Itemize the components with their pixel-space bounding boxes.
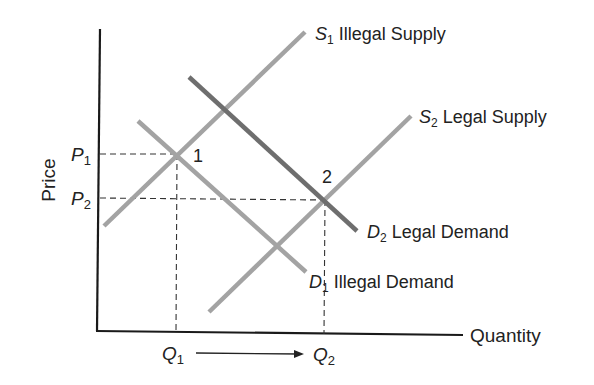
d1-label: D1Illegal Demand	[309, 272, 454, 295]
s2-label: S2Legal Supply	[419, 107, 547, 130]
y-axis	[97, 29, 100, 331]
q1-guide	[176, 154, 177, 332]
q-shift-arrow-icon	[196, 350, 304, 358]
s1-illegal-supply-line	[104, 32, 305, 226]
d2-legal-demand-line	[189, 77, 357, 231]
q1-label: Q1	[162, 343, 184, 367]
p1-label: P1	[71, 144, 91, 168]
x-axis-label: Quantity	[470, 325, 541, 346]
x-axis	[96, 331, 463, 335]
p2-label: P2	[71, 188, 91, 212]
q2-guide	[324, 200, 325, 334]
supply-demand-chart: Price P1 P2 1 2 S1Illegal Supply S2Legal…	[0, 0, 594, 385]
s1-label: S1Illegal Supply	[315, 24, 446, 47]
equilibrium-1-label: 1	[193, 146, 203, 166]
d2-label: D2Legal Demand	[367, 222, 509, 245]
d1-illegal-demand-line	[138, 121, 306, 272]
equilibrium-2-label: 2	[322, 167, 332, 187]
y-axis-label: Price	[38, 158, 59, 201]
q2-label: Q2	[313, 344, 335, 368]
